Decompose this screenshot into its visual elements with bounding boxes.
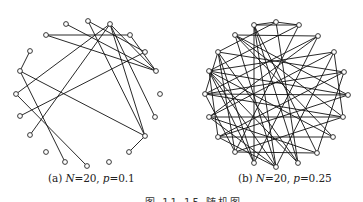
random-graph-figure: (a) N=20, p=0.1 (b) N=20, p=0.25 图 11.15… (0, 0, 363, 202)
graph-node (252, 23, 257, 28)
graph-node (332, 50, 337, 55)
graph-node (341, 115, 346, 120)
graph-node (203, 92, 208, 97)
graph-node (274, 165, 279, 170)
graph-node (233, 33, 238, 38)
graph-node (216, 135, 221, 140)
figure-caption: 图 11.15 随机图 (145, 194, 242, 202)
graph-node (274, 20, 279, 25)
graph-edge (254, 25, 276, 167)
graph-node (316, 34, 321, 39)
graph-edge (235, 35, 318, 36)
subfigure-caption-a: (a) N=20, p=0.1 (48, 172, 135, 184)
graph-node (207, 69, 212, 74)
subfigure-caption-b: (b) N=20, p=0.25 (238, 172, 332, 184)
graph-node (233, 150, 238, 155)
graph-node (297, 23, 302, 28)
graph-node (252, 161, 257, 166)
graph-edge (334, 52, 343, 117)
graph-node (346, 93, 351, 98)
graph-node (296, 161, 301, 166)
graph-node (207, 115, 212, 120)
graph-node (342, 70, 347, 75)
graph-node (331, 135, 336, 140)
graph-node (315, 151, 320, 156)
graph-edge (235, 35, 276, 167)
graph-edge (235, 35, 348, 95)
edges (205, 22, 348, 167)
random-graph-b (0, 0, 363, 172)
graph-node (216, 50, 221, 55)
